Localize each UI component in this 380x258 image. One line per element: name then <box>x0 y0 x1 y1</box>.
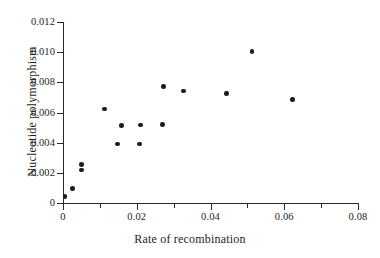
y-axis-tick <box>57 22 63 23</box>
x-axis-tick-label: 0.04 <box>201 212 220 223</box>
x-axis-tick <box>100 204 101 208</box>
data-point <box>102 107 107 112</box>
data-point <box>224 91 229 96</box>
y-axis-line <box>63 22 64 204</box>
y-axis-tick <box>57 113 63 114</box>
x-axis-title: Rate of recombination <box>0 232 380 247</box>
data-point <box>119 123 124 128</box>
data-point <box>250 49 255 54</box>
x-axis-tick-label: 0.06 <box>275 212 294 223</box>
data-point <box>160 122 165 127</box>
data-point <box>70 186 75 191</box>
x-axis-tick <box>174 204 175 208</box>
data-point <box>137 142 142 147</box>
y-axis-tick <box>57 143 63 144</box>
data-point <box>138 123 143 128</box>
y-axis-title: Nucleotide polymorphism <box>25 17 40 207</box>
data-point <box>79 168 84 173</box>
y-axis-tick <box>57 82 63 83</box>
y-axis-tick-label: 0 <box>50 198 55 209</box>
scatter-plot-figure: 00.0020.0040.0060.0080.0100.012 00.020.0… <box>0 0 380 258</box>
y-axis-tick <box>57 52 63 53</box>
x-axis-tick <box>284 204 285 210</box>
x-axis-tick <box>137 204 138 210</box>
data-point <box>161 84 166 89</box>
data-point <box>115 142 120 147</box>
x-axis-tick <box>63 204 64 210</box>
data-point <box>290 97 295 102</box>
x-axis-tick <box>358 204 359 210</box>
x-axis-tick <box>211 204 212 210</box>
y-axis-tick <box>57 173 63 174</box>
x-axis-tick-label: 0.08 <box>349 212 368 223</box>
data-point <box>79 162 84 167</box>
x-axis-tick <box>321 204 322 208</box>
x-axis-tick-label: 0.02 <box>127 212 146 223</box>
x-axis-tick <box>247 204 248 208</box>
plot-area <box>63 22 358 203</box>
x-axis-tick-label: 0 <box>60 212 65 223</box>
data-point <box>63 194 68 199</box>
